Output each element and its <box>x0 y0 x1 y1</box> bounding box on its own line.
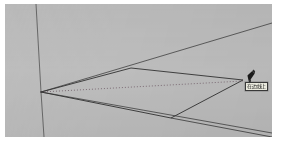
inference-tooltip: 在边线上 <box>245 82 268 91</box>
face-edge-upper <box>41 68 243 92</box>
app-name: 3D Modeling Viewport <box>0 0 1 1</box>
face-edge-lower <box>41 80 243 118</box>
modeling-viewport[interactable]: 在边线上 <box>5 4 272 137</box>
application-screenshot: 在边线上 3D Modeling Viewport <box>0 0 282 152</box>
face-edge-extension <box>171 118 272 137</box>
inference-tooltip-text: 在边线上 <box>247 83 266 89</box>
origin-point <box>40 91 42 93</box>
viewport-geometry <box>5 4 272 137</box>
green-axis-line <box>41 23 272 92</box>
red-axis-line <box>41 92 272 133</box>
blue-axis-line <box>36 4 44 137</box>
